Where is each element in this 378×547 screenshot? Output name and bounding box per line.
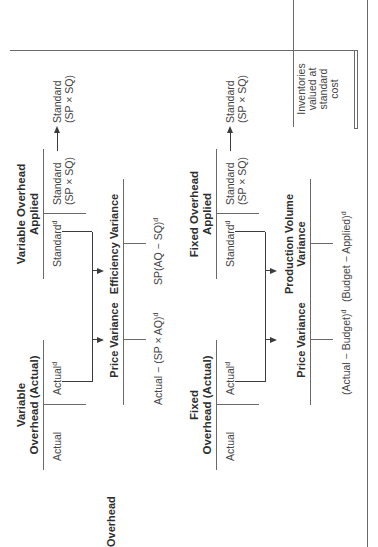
vo-price-t-split — [123, 339, 146, 340]
fo-actual-connector-out — [235, 381, 265, 382]
vo-actual-debit: Actual — [51, 432, 63, 461]
vo-price-formula: Actual − (SP × AQ)d — [152, 313, 164, 405]
fo-actual-t-split — [216, 404, 259, 405]
vo-eff-formula: SP(AQ − SQ)d — [152, 218, 164, 285]
fo-price-t-split — [310, 339, 333, 340]
fo-applied-credit: Standard (SP × SQ) — [224, 157, 248, 205]
vo-actual-credit: Actuald — [51, 362, 63, 395]
vo-transfer-line — [57, 131, 58, 151]
section-divider-right — [293, 0, 294, 127]
fo-production-volume-variance-title: Production Volume Variance — [283, 179, 307, 309]
fo-applied-title: Fixed Overhead Applied — [188, 149, 214, 279]
vo-eff-arrow-icon — [97, 268, 104, 274]
vo-transfer-target: Standard (SP × SQ) — [51, 75, 75, 123]
inventories-double-rule-2 — [357, 51, 358, 129]
vo-applied-debit: Standardd — [51, 220, 63, 267]
vo-efficiency-variance-title: Efficiency Variance — [108, 179, 120, 309]
vo-bus-line — [92, 232, 93, 382]
fo-volume-t-split — [310, 243, 333, 244]
inventories-note: Inventories valued at standard cost — [296, 51, 340, 127]
vo-price-arrow-icon — [97, 337, 104, 343]
vo-actual-t-split — [43, 404, 86, 405]
fo-actual-title: Fixed Overhead (Actual) — [188, 340, 214, 470]
fo-transfer-line — [230, 131, 231, 151]
page-edge-rule — [367, 0, 368, 547]
fo-bus-line — [265, 232, 266, 382]
vo-transfer-arrow-icon — [54, 126, 60, 133]
inventories-double-rule-1 — [354, 51, 355, 129]
vo-actual-title: Variable Overhead (Actual) — [15, 340, 41, 470]
rotated-page: Overhead Variable Overhead (Actual) Actu… — [0, 0, 378, 547]
fo-actual-debit: Actual — [224, 432, 236, 461]
fo-transfer-target: Standard (SP × SQ) — [224, 75, 248, 123]
vo-actual-connector-out — [62, 381, 92, 382]
vo-eff-t-top — [123, 179, 124, 309]
vo-eff-t-split — [123, 243, 146, 244]
fo-price-formula: (Actual − Budget)d — [340, 310, 352, 395]
row-label-overhead: Overhead — [105, 496, 117, 547]
fo-volume-arrow-icon — [270, 268, 277, 274]
fo-standard-connector-out — [235, 231, 265, 232]
vo-applied-credit: Standard (SP × SQ) — [51, 157, 75, 205]
vo-actual-t-top — [43, 340, 44, 470]
vo-applied-title: Variable Overhead Applied — [15, 149, 41, 279]
fo-applied-t-top — [216, 149, 217, 279]
fo-transfer-arrow-icon — [227, 126, 233, 133]
fo-price-arrow-icon — [270, 337, 277, 343]
vo-applied-t-top — [43, 149, 44, 279]
fo-volume-t-top — [310, 179, 311, 309]
fo-actual-credit: Actuald — [224, 362, 236, 395]
vo-standard-connector-out — [62, 231, 92, 232]
fo-applied-debit: Standardd — [224, 220, 236, 267]
diagram-frame: Overhead Variable Overhead (Actual) Actu… — [0, 0, 378, 547]
fo-applied-t-split — [216, 213, 259, 214]
vo-applied-t-split — [43, 213, 86, 214]
fo-volume-formula: (Budget − Applied)d — [340, 211, 352, 302]
fo-actual-t-top — [216, 340, 217, 470]
